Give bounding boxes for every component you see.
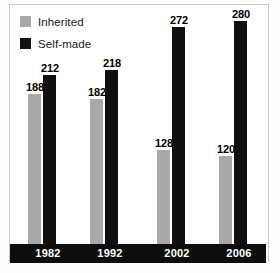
bar-group-2002: 128 272 (157, 5, 203, 244)
x-axis-tick-2002: 2002 (147, 244, 207, 263)
bar-value-selfmade-2002: 272 (162, 14, 196, 26)
x-axis-band: 1982 1992 2002 2006 (10, 244, 266, 263)
bar-value-selfmade-1982: 212 (33, 62, 67, 74)
plot-frame-right (268, 4, 269, 262)
bar-selfmade-1992 (105, 70, 118, 244)
bar-selfmade-1982 (43, 75, 56, 244)
bar-inherited-2006 (219, 156, 232, 244)
x-axis-tick-2006: 2006 (209, 244, 269, 263)
bar-chart-figure: Inherited Self-made 188 212 182 218 (0, 0, 280, 273)
bar-selfmade-2002 (172, 27, 185, 244)
bar-value-selfmade-1992: 218 (95, 57, 129, 69)
x-axis-tick-1982: 1982 (18, 244, 78, 263)
bar-group-2006: 120 280 (219, 5, 265, 244)
bar-group-1992: 182 218 (90, 5, 136, 244)
x-axis-tick-1992: 1992 (80, 244, 140, 263)
bar-selfmade-2006 (234, 21, 247, 244)
bar-group-1982: 188 212 (28, 5, 74, 244)
bar-inherited-2002 (157, 150, 170, 244)
plot-area: Inherited Self-made 188 212 182 218 (10, 5, 268, 244)
bar-value-selfmade-2006: 280 (224, 8, 258, 20)
bar-inherited-1992 (90, 99, 103, 244)
bar-inherited-1982 (28, 94, 41, 244)
bars-area: 188 212 182 218 128 272 120 (10, 5, 268, 244)
